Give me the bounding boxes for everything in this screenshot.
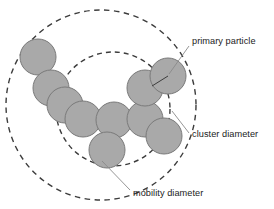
primary-particle [89,132,125,168]
mobility-diameter-label: mobility diameter [133,188,203,198]
diagram-canvas: primary particle cluster diameter mobili… [0,0,274,209]
cluster-diameter-label: cluster diameter [192,129,258,139]
primary-particle-group [20,39,186,168]
mobility-diameter-circle [6,10,196,200]
primary-particle [146,118,182,154]
primary-particle-label: primary particle [192,36,256,46]
agglomerate-diagram: primary particle cluster diameter mobili… [0,0,274,209]
